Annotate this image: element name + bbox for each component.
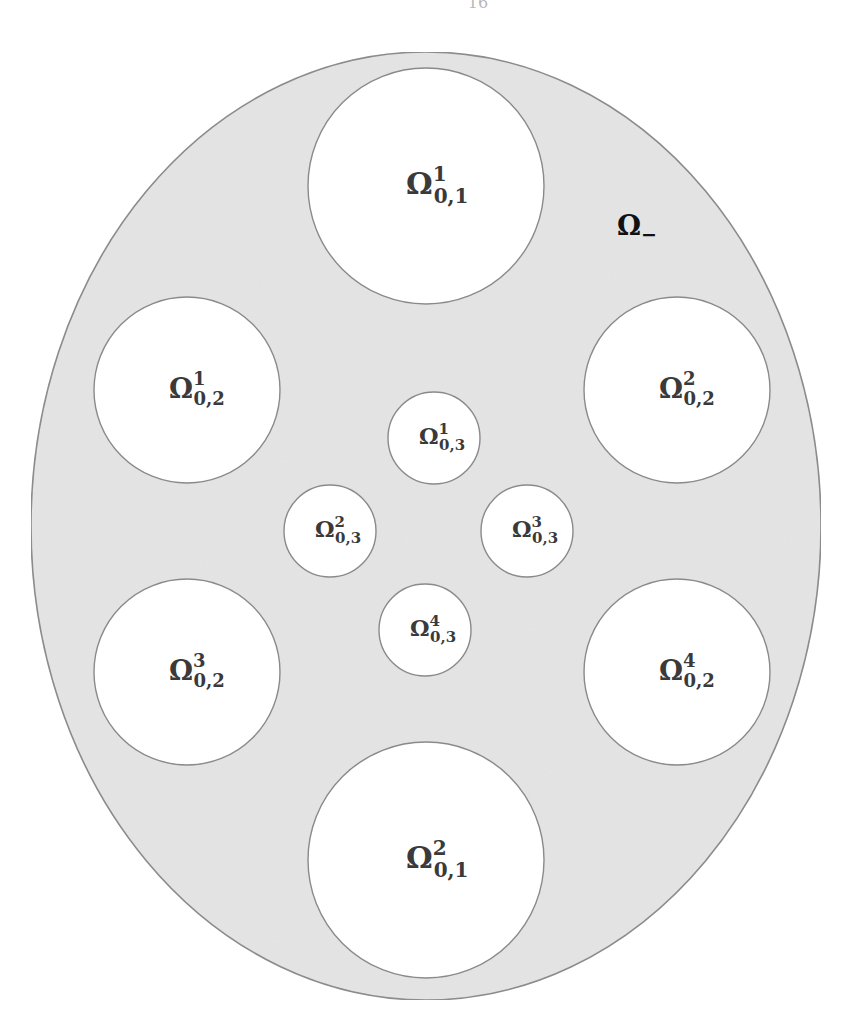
omega-0-1-sup-1-label-superscript: 1 bbox=[433, 162, 447, 186]
hole-omega-0-3-sup-1: Ω10,3 bbox=[388, 392, 480, 484]
figure-container: 16 Ω10,1Ω20,1Ω10,2Ω20,2Ω30,2Ω40,2Ω10,3Ω2… bbox=[0, 0, 857, 1031]
omega-0-2-sup-3-label-superscript: 3 bbox=[193, 650, 206, 671]
omega-0-2-sup-4-label-base: Ω bbox=[659, 655, 683, 686]
hole-omega-0-3-sup-4: Ω40,3 bbox=[379, 584, 471, 676]
omega-0-3-sup-3-label-base: Ω bbox=[512, 516, 532, 542]
hole-omega-0-1-sup-2: Ω20,1 bbox=[308, 742, 544, 978]
omega-0-3-sup-3-label-subscript: 0,3 bbox=[532, 529, 558, 547]
omega-0-1-sup-2-label-superscript: 2 bbox=[433, 836, 447, 860]
hole-omega-0-3-sup-2: Ω20,3 bbox=[284, 485, 376, 577]
hole-omega-0-2-sup-1: Ω10,2 bbox=[94, 297, 280, 483]
hole-omega-0-2-sup-2: Ω20,2 bbox=[584, 297, 770, 483]
omega-0-2-sup-2-label-subscript: 0,2 bbox=[684, 388, 715, 409]
omega-0-2-sup-1-label-base: Ω bbox=[169, 373, 193, 404]
omega-0-2-sup-1-label-subscript: 0,2 bbox=[194, 388, 225, 409]
omega-0-2-sup-2-label-base: Ω bbox=[659, 373, 683, 404]
omega-0-3-sup-1-label-subscript: 0,3 bbox=[439, 436, 465, 454]
omega-0-2-sup-1-label-superscript: 1 bbox=[193, 368, 206, 389]
hole-omega-0-1-sup-1: Ω10,1 bbox=[308, 68, 544, 304]
hole-omega-0-3-sup-3: Ω30,3 bbox=[481, 485, 573, 577]
omega-0-1-sup-1-label-subscript: 0,1 bbox=[434, 184, 469, 208]
omega-0-3-sup-2-label-base: Ω bbox=[315, 516, 335, 542]
hole-omega-0-2-sup-4: Ω40,2 bbox=[584, 579, 770, 765]
omega-0-1-sup-2-label-base: Ω bbox=[406, 840, 433, 875]
omega-0-2-sup-4-label-superscript: 4 bbox=[683, 650, 696, 671]
omega-0-2-sup-3-label-subscript: 0,2 bbox=[194, 670, 225, 691]
outer-domain-label-base: Ω bbox=[617, 210, 641, 241]
perforated-domain-figure: 16 Ω10,1Ω20,1Ω10,2Ω20,2Ω30,2Ω40,2Ω10,3Ω2… bbox=[0, 0, 857, 1031]
omega-0-1-sup-2-label-subscript: 0,1 bbox=[434, 858, 469, 882]
omega-0-3-sup-4-label-subscript: 0,3 bbox=[430, 628, 456, 646]
omega-0-3-sup-1-label-base: Ω bbox=[419, 423, 439, 449]
page-number-mark: 16 bbox=[468, 0, 488, 12]
outer-domain-label-subscript: − bbox=[641, 223, 657, 245]
omega-0-2-sup-2-label-superscript: 2 bbox=[683, 368, 696, 389]
omega-0-2-sup-4-label-subscript: 0,2 bbox=[684, 670, 715, 691]
omega-0-3-sup-2-label-subscript: 0,3 bbox=[335, 529, 361, 547]
omega-0-1-sup-1-label-base: Ω bbox=[406, 166, 433, 201]
hole-omega-0-2-sup-3: Ω30,2 bbox=[94, 579, 280, 765]
omega-0-3-sup-4-label-base: Ω bbox=[410, 615, 430, 641]
omega-0-2-sup-3-label-base: Ω bbox=[169, 655, 193, 686]
